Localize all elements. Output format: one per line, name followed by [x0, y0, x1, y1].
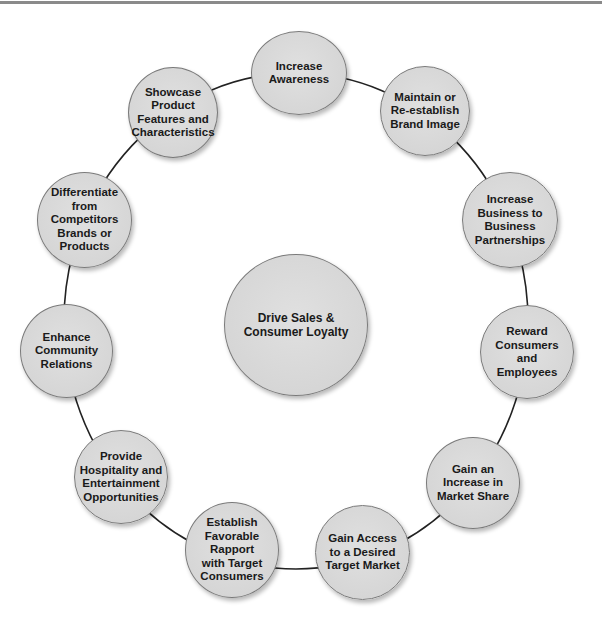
ring-node-b2b-partnerships: Increase Business to Business Partnershi… — [462, 172, 558, 268]
ring-node-label: Maintain or Re-establish Brand Image — [386, 91, 464, 132]
ring-node-target-market: Gain Access to a Desired Target Market — [315, 505, 410, 600]
ring-node-reward-consumers: Reward Consumers and Employees — [480, 305, 574, 399]
ring-node-label: Differentiate from Competitors Brands or… — [47, 186, 123, 254]
ring-node-differentiate: Differentiate from Competitors Brands or… — [37, 172, 132, 268]
ring-node-label: Enhance Community Relations — [31, 331, 102, 372]
ring-node-label: Increase Awareness — [265, 60, 334, 87]
ring-node-increase-awareness: Increase Awareness — [251, 31, 347, 115]
ring-node-hospitality: Provide Hospitality and Entertainment Op… — [74, 430, 168, 524]
ring-node-label: Gain an Increase in Market Share — [433, 463, 513, 504]
ring-node-label: Reward Consumers and Employees — [481, 325, 573, 379]
ring-node-label: Showcase Product Features and Characteri… — [127, 86, 218, 140]
center-node-drive-sales: Drive Sales & Consumer Loyalty — [224, 254, 368, 396]
ring-node-showcase-product: Showcase Product Features and Characteri… — [128, 67, 218, 158]
ring-node-market-share: Gain an Increase in Market Share — [426, 437, 520, 529]
ring-node-community-relations: Enhance Community Relations — [20, 304, 113, 398]
ring-node-label: Gain Access to a Desired Target Market — [321, 532, 404, 573]
ring-node-label: Provide Hospitality and Entertainment Op… — [76, 450, 166, 504]
center-node-label: Drive Sales & Consumer Loyalty — [240, 311, 353, 339]
ring-node-favorable-rapport: Establish Favorable Rapport with Target … — [185, 502, 279, 598]
ring-node-label: Establish Favorable Rapport with Target … — [196, 516, 267, 584]
ring-node-brand-image: Maintain or Re-establish Brand Image — [380, 66, 470, 156]
ring-node-label: Increase Business to Business Partnershi… — [471, 193, 549, 247]
